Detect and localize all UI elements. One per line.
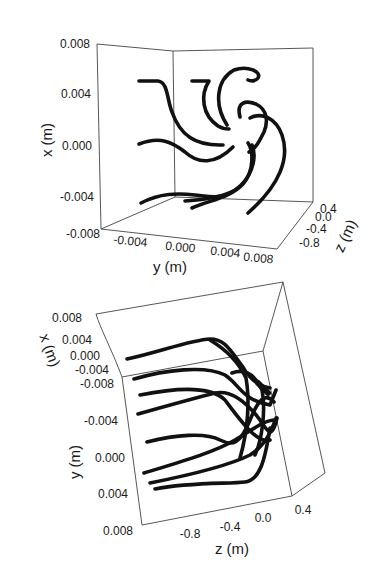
top-y-axis-label: y (m)	[153, 258, 187, 275]
top-plot-box	[97, 44, 313, 249]
tick-label: 0.000	[62, 139, 92, 153]
tick-label: -0.004	[60, 190, 94, 204]
tick-label: 0.008	[52, 311, 82, 325]
tick-label: 0.4	[295, 503, 312, 517]
bottom-x-axis-label: x (m)	[36, 331, 64, 369]
bottom-y-axis-label: y (m)	[66, 445, 83, 479]
top-plot: 0.008 0.004 0.000 -0.004 -0.008 x (m) -0…	[38, 37, 360, 275]
bottom-plot-trajectories	[127, 339, 277, 489]
tick-label: 0.004	[210, 243, 242, 260]
tick-label: -0.4	[306, 222, 327, 236]
tick-label: 0.008	[103, 524, 133, 538]
tick-label: -0.004	[84, 414, 118, 428]
top-plot-trajectories	[139, 68, 285, 213]
tick-label: -0.8	[180, 527, 201, 541]
tick-label: -0.4	[220, 520, 241, 534]
top-z-axis-label: z (m)	[330, 217, 360, 255]
bottom-z-axis-label: z (m)	[215, 540, 249, 557]
top-x-axis-label: x (m)	[38, 123, 55, 157]
tick-label: -0.004	[75, 363, 109, 377]
tick-label: -0.004	[113, 232, 149, 250]
tick-label: -0.8	[299, 236, 320, 250]
bottom-y-ticks: -0.004 0.000 0.004 0.008	[84, 414, 133, 538]
tick-label: -0.008	[80, 377, 114, 391]
tick-label: 0.0	[255, 511, 272, 525]
bottom-x-ticks: 0.008 0.004 0.000 -0.004 -0.008	[52, 311, 114, 391]
tick-label: -0.008	[66, 227, 100, 241]
tick-label: 0.000	[95, 451, 125, 465]
figure: 0.008 0.004 0.000 -0.004 -0.008 x (m) -0…	[0, 0, 375, 586]
bottom-plot-box	[96, 282, 325, 525]
tick-label: 0.008	[243, 249, 275, 266]
tick-label: 0.004	[98, 487, 128, 501]
tick-label: 0.004	[61, 87, 91, 101]
bottom-z-ticks: -0.8 -0.4 0.0 0.4	[180, 503, 312, 541]
top-x-ticks: 0.008 0.004 0.000 -0.004 -0.008	[60, 37, 100, 241]
tick-label: 0.000	[165, 238, 197, 255]
tick-label: 0.004	[62, 333, 92, 347]
bottom-plot: 0.008 0.004 0.000 -0.004 -0.008 x (m) -0…	[36, 282, 325, 557]
tick-label: 0.008	[60, 37, 90, 51]
top-y-ticks: -0.004 0.000 0.004 0.008	[113, 232, 275, 266]
tick-label: 0.000	[70, 349, 100, 363]
